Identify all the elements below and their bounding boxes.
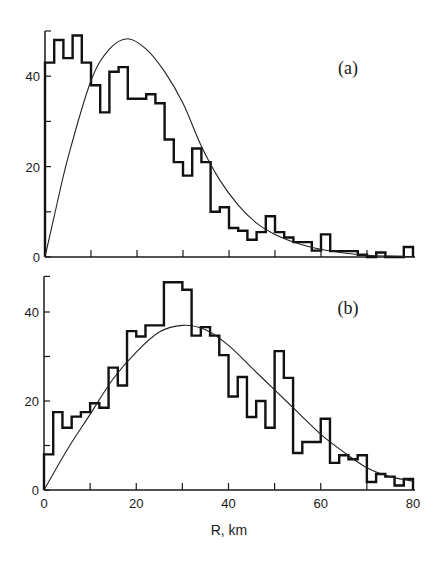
x-tick-label: 0 — [40, 496, 47, 511]
histogram-bin — [99, 408, 108, 490]
panel-label: (a) — [338, 58, 358, 79]
histogram-bin — [238, 231, 247, 257]
x-tick-label: 80 — [406, 496, 420, 511]
histogram-bin — [395, 486, 404, 490]
histogram-bin — [183, 176, 192, 257]
y-tick-label: 40 — [25, 305, 39, 320]
histogram-bin — [90, 403, 99, 490]
histogram-bin — [182, 290, 191, 490]
histogram-bin — [155, 103, 164, 257]
histogram-bin — [265, 428, 274, 490]
histogram-bin — [146, 94, 155, 257]
histogram-bin — [293, 453, 302, 490]
histogram-bin — [210, 336, 219, 490]
histogram-bin — [62, 428, 71, 490]
histogram-bin — [312, 251, 321, 257]
histogram-bin — [192, 336, 201, 490]
histogram-bin — [339, 455, 348, 490]
histogram-bin — [385, 477, 394, 490]
histogram-bin — [266, 216, 275, 257]
histogram-bin — [257, 232, 266, 257]
histogram-bin — [321, 419, 330, 490]
histogram-bin — [174, 162, 183, 257]
histogram-bin — [45, 63, 54, 257]
histogram-bin — [109, 72, 118, 257]
panel-label: (b) — [338, 298, 359, 319]
histogram-bin — [91, 85, 100, 257]
histogram-bin — [165, 139, 174, 257]
histogram-bin — [348, 459, 357, 490]
histogram-bin — [44, 454, 53, 490]
histogram-bin — [73, 36, 82, 257]
histogram-bin — [201, 327, 210, 490]
histogram-bin — [367, 482, 376, 490]
histogram-bin — [284, 378, 293, 490]
histogram-bin — [72, 417, 81, 490]
histogram-bin — [275, 232, 284, 257]
y-tick-label: 0 — [32, 483, 39, 498]
histogram-bin — [302, 442, 311, 490]
histogram-bin — [321, 234, 330, 257]
histogram-bin — [238, 377, 247, 490]
histogram-bin — [303, 242, 312, 257]
histogram-bin — [376, 474, 385, 490]
panel-a: 02040(a) — [26, 31, 415, 265]
histogram-bin — [404, 247, 413, 257]
panel-b: 02040020406080(b) — [25, 276, 421, 511]
histogram-bin — [229, 397, 238, 490]
histogram-bin — [247, 240, 256, 257]
histogram-bin — [53, 412, 62, 490]
histogram-bin — [137, 99, 146, 257]
histogram-bin — [119, 67, 128, 257]
histogram-bin — [229, 228, 238, 257]
histogram-bin — [54, 40, 63, 257]
histogram-bin — [100, 112, 109, 257]
histogram-bin — [358, 455, 367, 490]
histogram-bin — [173, 282, 182, 490]
histogram-bin — [275, 351, 284, 490]
histogram-bin — [219, 355, 228, 490]
histogram-bin — [136, 336, 145, 490]
histogram-bin — [155, 325, 164, 490]
histogram-bin — [164, 282, 173, 490]
x-tick-label: 40 — [221, 496, 235, 511]
histogram-bin — [220, 207, 229, 257]
histogram-bin — [81, 412, 90, 490]
histogram-bin — [128, 99, 137, 257]
histogram-bin — [312, 442, 321, 490]
histogram-bin — [109, 368, 118, 490]
histogram-bin — [256, 401, 265, 490]
histogram-bin — [127, 331, 136, 490]
y-tick-label: 40 — [26, 69, 40, 84]
histogram-bin — [192, 149, 201, 257]
y-tick-label: 20 — [25, 394, 39, 409]
figure: 02040(a) 02040020406080(b) R, km — [0, 0, 440, 562]
histogram-bin — [82, 63, 91, 257]
histogram-bin — [247, 417, 256, 490]
x-tick-label: 20 — [129, 496, 143, 511]
histogram-bin — [145, 325, 154, 490]
histogram-bin — [330, 463, 339, 490]
histogram-bin — [211, 212, 220, 257]
x-tick-label: 60 — [314, 496, 328, 511]
y-tick-label: 20 — [26, 160, 40, 175]
x-axis-title: R, km — [211, 522, 248, 538]
histogram-bin — [118, 385, 127, 490]
y-tick-label: 0 — [33, 250, 40, 265]
histogram-bin — [201, 162, 210, 257]
